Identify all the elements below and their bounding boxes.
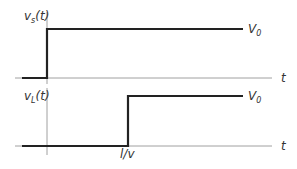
top-level-label: V0 (248, 22, 261, 38)
bottom-x-label: t (281, 139, 287, 153)
top-step-signal (22, 29, 243, 78)
bottom-chart: vL(t) V0 t l/v (15, 88, 287, 161)
top-x-label: t (281, 71, 287, 85)
top-y-label: vs(t) (24, 9, 49, 25)
bottom-step-signal (22, 96, 243, 146)
delay-tick-label: l/v (120, 147, 135, 161)
top-chart: vs(t) V0 t (15, 9, 287, 85)
step-response-diagram: vs(t) V0 t vL(t) V0 t l/v (0, 0, 297, 169)
bottom-y-label: vL(t) (24, 89, 50, 105)
bottom-level-label: V0 (248, 89, 261, 105)
